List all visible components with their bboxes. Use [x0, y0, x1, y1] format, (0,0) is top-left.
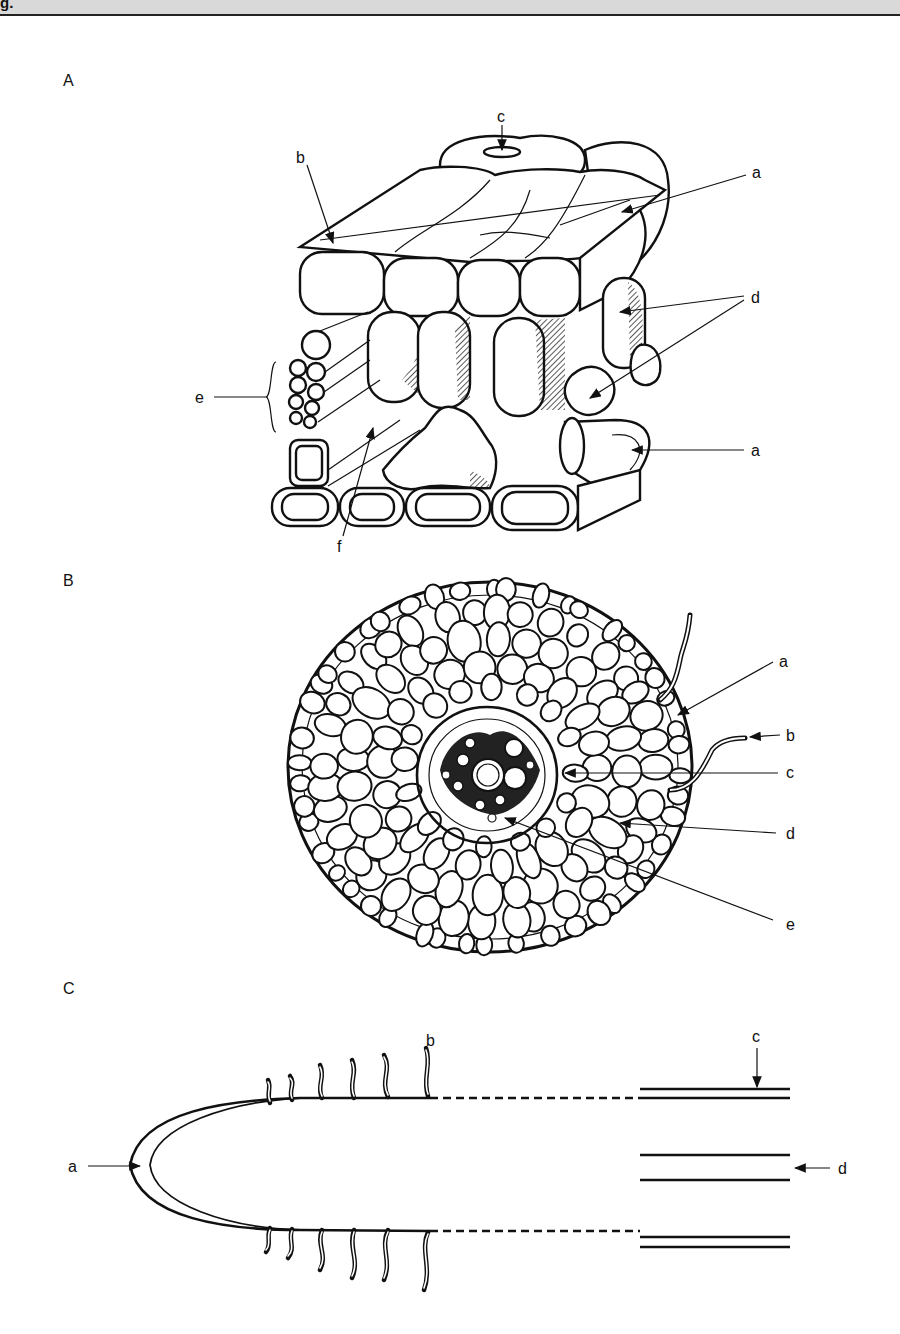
- figure-canvas: c b a d e a f: [0, 0, 900, 1334]
- stele: [440, 731, 540, 822]
- label-b-a: a: [779, 653, 788, 670]
- label-a-d: d: [751, 289, 760, 306]
- label-c-d: d: [838, 1160, 847, 1177]
- label-c-b: b: [426, 1032, 435, 1049]
- label-a-c: c: [497, 108, 505, 125]
- label-b-d: d: [786, 825, 795, 842]
- label-a-e: e: [195, 389, 204, 406]
- bundle-cells-e: [289, 312, 380, 428]
- label-a-a-top: a: [752, 164, 761, 181]
- label-b-c: c: [786, 764, 794, 781]
- label-a-b: b: [296, 149, 305, 166]
- label-a-a-bottom: a: [751, 442, 760, 459]
- label-c-a: a: [68, 1158, 77, 1175]
- panel-a-diagram: c b a d e a f: [195, 108, 761, 555]
- panel-b-diagram: a b c d e: [288, 577, 795, 955]
- root-outline: [130, 1098, 430, 1231]
- label-a-f: f: [337, 538, 342, 555]
- label-c-c: c: [752, 1028, 760, 1045]
- panel-c-diagram: a b c d: [68, 1028, 847, 1290]
- label-b-b: b: [786, 727, 795, 744]
- label-b-e: e: [786, 916, 795, 933]
- root-hairs-top: [268, 1048, 428, 1103]
